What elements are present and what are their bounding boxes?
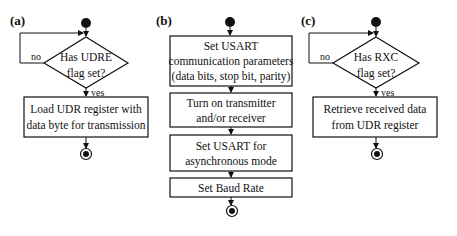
panel-label-c: (c) bbox=[301, 13, 315, 28]
action-line1-c: Retrieve received data bbox=[324, 103, 427, 115]
flowchart-c: (c) Has RXC flag set? no yes Retrieve re… bbox=[301, 13, 437, 160]
step-2-line-2: and/or receiver bbox=[196, 112, 265, 124]
no-label-c: no bbox=[320, 51, 330, 62]
decision-line2-c: flag set? bbox=[357, 67, 396, 80]
decision-line2-a: flag set? bbox=[67, 67, 106, 80]
step-4-line-1: Set Baud Rate bbox=[198, 182, 264, 194]
start-node-c bbox=[371, 17, 381, 27]
action-line2-c: from UDR register bbox=[332, 119, 419, 132]
decision-line1-a: Has UDRE bbox=[60, 51, 112, 63]
step-3-line-1: Set USART for bbox=[196, 140, 267, 152]
action-line2-a: data byte for transmission bbox=[26, 119, 145, 132]
start-node-a bbox=[81, 18, 91, 28]
decision-line1-c: Has RXC bbox=[354, 51, 399, 63]
flowchart-b: (b) Set USART communication parameters (… bbox=[156, 13, 294, 217]
no-label-a: no bbox=[31, 51, 41, 62]
step-3-line-2: asynchronous mode bbox=[185, 155, 277, 168]
panel-label-b: (b) bbox=[156, 13, 172, 28]
action-line1-a: Load UDR register with bbox=[30, 103, 142, 116]
flowchart-a: (a) Has UDRE flag set? no yes Load UDR r… bbox=[10, 13, 148, 160]
step-1-line-1: Set USART bbox=[204, 40, 259, 52]
yes-label-a: yes bbox=[91, 87, 104, 98]
panel-label-a: (a) bbox=[10, 13, 25, 28]
step-1-line-3: (data bits, stop bit, parity) bbox=[172, 70, 291, 83]
step-1-line-2: communication parameters bbox=[169, 55, 294, 68]
step-2-line-1: Turn on transmitter bbox=[186, 97, 275, 109]
yes-label-c: yes bbox=[381, 87, 394, 98]
usart-flowcharts: (a) Has UDRE flag set? no yes Load UDR r… bbox=[0, 0, 457, 236]
start-node-b bbox=[225, 17, 235, 27]
